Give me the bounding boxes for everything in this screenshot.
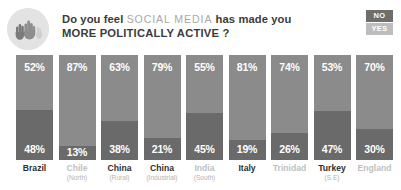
bar-label-region: (North) bbox=[55, 173, 100, 182]
bar-label-country: Brazil bbox=[12, 163, 57, 173]
bar-group: 53%47%Turkey(S.E) bbox=[314, 55, 351, 190]
bar-label-country: Trinidad bbox=[267, 163, 312, 173]
bar-segment-no: 53% bbox=[314, 55, 351, 111]
bar-label-region: (Industrial) bbox=[140, 173, 185, 182]
bar-label: Turkey(S.E) bbox=[310, 163, 355, 182]
bar-value-yes: 48% bbox=[16, 143, 53, 155]
bar-segment-yes: 13% bbox=[59, 146, 96, 160]
bar-value-yes: 26% bbox=[271, 143, 308, 155]
stacked-bar: 55%45% bbox=[186, 55, 223, 160]
bar-value-yes: 19% bbox=[229, 143, 266, 155]
bar-value-no: 52% bbox=[16, 61, 53, 73]
raised-hands-icon bbox=[7, 8, 49, 50]
bar-value-no: 74% bbox=[271, 61, 308, 73]
bar-value-no: 55% bbox=[186, 61, 223, 73]
bar-group: 52%48%Brazil bbox=[16, 55, 53, 190]
bar-group: 63%38%China(Rural) bbox=[101, 55, 138, 190]
bar-value-no: 63% bbox=[101, 61, 138, 73]
bar-label: India(South) bbox=[182, 163, 227, 182]
bar-segment-no: 63% bbox=[101, 55, 138, 121]
bar-value-yes: 38% bbox=[101, 143, 138, 155]
bar-value-no: 70% bbox=[356, 61, 393, 73]
bar-label-region: (Rural) bbox=[97, 173, 142, 182]
bar-segment-no: 79% bbox=[144, 55, 181, 138]
legend-item-yes: YES bbox=[366, 23, 393, 35]
bar-segment-no: 70% bbox=[356, 55, 393, 129]
stacked-bar: 79%21% bbox=[144, 55, 181, 160]
bar-label: Brazil bbox=[12, 163, 57, 173]
bar-segment-yes: 48% bbox=[16, 110, 53, 160]
stacked-bar: 63%38% bbox=[101, 55, 138, 160]
bar-value-no: 53% bbox=[314, 61, 351, 73]
title-suffix: has made you bbox=[216, 13, 292, 25]
bar-segment-yes: 19% bbox=[229, 140, 266, 160]
bar-label: China(Rural) bbox=[97, 163, 142, 182]
bar-group: 55%45%India(South) bbox=[186, 55, 223, 190]
bar-segment-no: 55% bbox=[186, 55, 223, 113]
stacked-bar: 87%13% bbox=[59, 55, 96, 160]
bar-segment-yes: 47% bbox=[314, 111, 351, 160]
page-title: Do you feel SOCIAL MEDIA has made you MO… bbox=[62, 13, 337, 40]
stacked-bar: 52%48% bbox=[16, 55, 53, 160]
bar-label-region: (South) bbox=[182, 173, 227, 182]
bar-segment-yes: 45% bbox=[186, 113, 223, 160]
stacked-bar: 74%26% bbox=[271, 55, 308, 160]
bar-label-country: England bbox=[352, 163, 397, 173]
bar-label-country: China bbox=[97, 163, 142, 173]
bar-label: England bbox=[352, 163, 397, 173]
bar-segment-yes: 21% bbox=[144, 138, 181, 160]
bar-value-yes: 45% bbox=[186, 143, 223, 155]
bar-label-country: Turkey bbox=[310, 163, 355, 173]
legend-item-no: NO bbox=[366, 10, 393, 22]
bar-group: 74%26%Trinidad bbox=[271, 55, 308, 190]
bar-label-country: China bbox=[140, 163, 185, 173]
bar-label-region: (S.E) bbox=[310, 173, 355, 182]
legend: NO YES bbox=[366, 10, 393, 35]
bar-segment-no: 74% bbox=[271, 55, 308, 133]
stacked-bar: 81%19% bbox=[229, 55, 266, 160]
title-line-2: MORE POLITICALLY ACTIVE ? bbox=[62, 27, 337, 41]
bar-group: 87%13%Chile(North) bbox=[59, 55, 96, 190]
bar-value-yes: 21% bbox=[144, 143, 181, 155]
bar-group: 70%30%England bbox=[356, 55, 393, 190]
bar-segment-yes: 26% bbox=[271, 133, 308, 160]
title-highlight: SOCIAL MEDIA bbox=[127, 13, 213, 25]
bar-segment-no: 52% bbox=[16, 55, 53, 110]
bar-label-country: India bbox=[182, 163, 227, 173]
bar-label: Italy bbox=[225, 163, 270, 173]
bar-label-country: Italy bbox=[225, 163, 270, 173]
bar-segment-no: 87% bbox=[59, 55, 96, 146]
bar-value-yes: 13% bbox=[59, 146, 96, 158]
stacked-bar: 70%30% bbox=[356, 55, 393, 160]
bar-label: Trinidad bbox=[267, 163, 312, 173]
stacked-bar-chart: 52%48%Brazil87%13%Chile(North)63%38%Chin… bbox=[0, 55, 401, 190]
bar-label-country: Chile bbox=[55, 163, 100, 173]
bar-label: Chile(North) bbox=[55, 163, 100, 182]
header: Do you feel SOCIAL MEDIA has made you MO… bbox=[0, 0, 401, 50]
title-line-1: Do you feel SOCIAL MEDIA has made you bbox=[62, 13, 337, 27]
bar-segment-yes: 30% bbox=[356, 129, 393, 161]
bar-segment-yes: 38% bbox=[101, 121, 138, 160]
title-prefix: Do you feel bbox=[62, 13, 123, 25]
bar-value-no: 79% bbox=[144, 61, 181, 73]
bar-group: 79%21%China(Industrial) bbox=[144, 55, 181, 190]
bar-value-no: 81% bbox=[229, 61, 266, 73]
stacked-bar: 53%47% bbox=[314, 55, 351, 160]
bar-value-yes: 30% bbox=[356, 143, 393, 155]
bar-label: China(Industrial) bbox=[140, 163, 185, 182]
bar-value-yes: 47% bbox=[314, 143, 351, 155]
infographic-root: Do you feel SOCIAL MEDIA has made you MO… bbox=[0, 0, 401, 190]
bar-segment-no: 81% bbox=[229, 55, 266, 140]
bar-value-no: 87% bbox=[59, 61, 96, 73]
bar-group: 81%19%Italy bbox=[229, 55, 266, 190]
